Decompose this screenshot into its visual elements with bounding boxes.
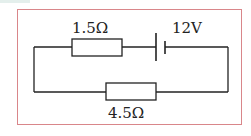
resistor-2-body xyxy=(106,83,156,100)
resistor-1-label: 1.5Ω xyxy=(72,21,108,36)
resistor-1-body xyxy=(72,39,122,56)
resistor-2-label: 4.5Ω xyxy=(108,106,144,121)
battery-label: 12V xyxy=(172,21,202,36)
